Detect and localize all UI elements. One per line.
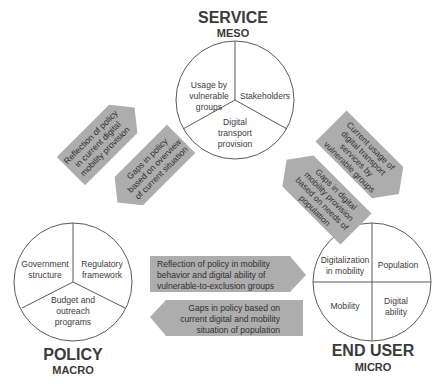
three-level-framework-diagram: SERVICE MESO Usage by vulnerable groups … — [0, 0, 443, 384]
arrow-end-user-to-policy: Gaps in policy based on current digital … — [150, 300, 303, 336]
svg-text:vulnerable: vulnerable — [189, 91, 229, 101]
service-title: SERVICE — [198, 9, 268, 26]
end-user-segment-digital-ability: Digital ability — [384, 296, 408, 317]
end-user-segment-population: Population — [378, 260, 419, 270]
svg-text:Regulatory: Regulatory — [81, 259, 123, 269]
svg-text:framework: framework — [82, 270, 123, 280]
svg-text:Digital: Digital — [223, 117, 247, 127]
svg-text:Population: Population — [378, 260, 419, 270]
end-user-subtitle: MICRO — [355, 361, 392, 373]
svg-text:Mobility: Mobility — [330, 301, 360, 311]
policy-segment-regulatory-framework: Regulatory framework — [81, 259, 123, 280]
policy-node: Government structure Regulatory framewor… — [14, 223, 132, 376]
service-node: SERVICE MESO Usage by vulnerable groups … — [176, 9, 294, 159]
end-user-segment-digitalization-in-mobility: Digitalization in mobility — [321, 255, 370, 276]
svg-text:Gaps in policy based on: Gaps in policy based on — [188, 303, 280, 313]
svg-text:behavior and digital ability o: behavior and digital ability of — [157, 270, 266, 280]
service-subtitle: MESO — [217, 27, 250, 39]
svg-text:transport: transport — [218, 128, 253, 138]
end-user-node: Digitalization in mobility Population Mo… — [313, 223, 431, 373]
arrow-policy-to-end-user: Reflection of policy in mobility behavio… — [150, 256, 306, 292]
svg-text:programs: programs — [55, 317, 91, 327]
svg-text:Digitalization: Digitalization — [321, 255, 370, 265]
end-user-segment-mobility: Mobility — [330, 301, 360, 311]
svg-text:structure: structure — [28, 270, 62, 280]
svg-text:Budget and: Budget and — [51, 295, 95, 305]
svg-text:in mobility: in mobility — [326, 266, 365, 276]
policy-subtitle: MACRO — [52, 364, 94, 376]
end-user-title: END USER — [332, 342, 415, 359]
svg-text:vulnerable-to-exclusion groups: vulnerable-to-exclusion groups — [157, 281, 274, 291]
svg-text:Digital: Digital — [384, 296, 408, 306]
svg-text:Reflection of policy in mobili: Reflection of policy in mobility — [157, 259, 270, 269]
svg-text:situation of population: situation of population — [196, 325, 280, 335]
policy-segment-budget-and-outreach-programs: Budget and outreach programs — [51, 295, 95, 327]
svg-text:ability: ability — [385, 307, 408, 317]
svg-text:Stakeholders: Stakeholders — [240, 91, 290, 101]
svg-text:Usage by: Usage by — [191, 80, 228, 90]
svg-text:provision: provision — [218, 139, 253, 149]
policy-title: POLICY — [43, 346, 103, 363]
svg-text:outreach: outreach — [56, 306, 90, 316]
svg-text:groups: groups — [196, 102, 222, 112]
service-segment-stakeholders: Stakeholders — [240, 91, 290, 101]
svg-text:Government: Government — [21, 259, 69, 269]
svg-text:current digital and mobility: current digital and mobility — [180, 314, 281, 324]
